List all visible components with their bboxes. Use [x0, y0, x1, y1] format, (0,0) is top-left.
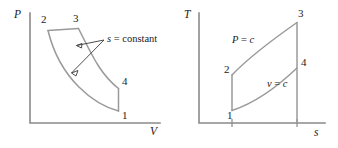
pv-process-2-3 [48, 29, 79, 31]
pv-axes [30, 13, 160, 123]
pv-annotation-arrowhead-lower [72, 71, 79, 77]
ts-axes [199, 13, 325, 123]
ts-process-2-3 [232, 23, 297, 76]
pv-x-axis-label: V [150, 126, 157, 138]
pv-state-label-4: 4 [122, 76, 128, 87]
pv-y-axis-label: P [14, 9, 21, 21]
ts-lower-annotation-value: c [283, 78, 288, 89]
pv-state-label-1: 1 [122, 110, 128, 121]
ts-x-axis-label: s [314, 127, 318, 139]
ts-upper-annotation-equals: = [238, 34, 249, 45]
pv-isentropic-annotation: s = constant [107, 34, 157, 45]
pv-annotation-arrowhead-upper [77, 44, 83, 49]
pv-annotation-equals: = [111, 33, 122, 44]
ts-y-axis-label: T [184, 9, 190, 21]
thermodynamics-figure: P V 2 3 4 1 s = constant T s 2 1 3 4 P =… [0, 0, 338, 148]
ts-state-label-4: 4 [301, 57, 307, 68]
ts-lower-annotation-equals: = [272, 78, 283, 89]
ts-state-label-1: 1 [227, 110, 233, 121]
pv-annotation-value: constant [122, 33, 157, 44]
ts-constant-pressure-annotation: P = c [232, 35, 254, 46]
ts-constant-volume-annotation: v = c [267, 79, 288, 90]
pv-state-label-3: 3 [73, 13, 79, 24]
ts-state-label-2: 2 [224, 64, 230, 75]
pv-state-label-2: 2 [41, 14, 47, 25]
ts-state-label-3: 3 [298, 8, 304, 19]
pv-diagram-canvas [0, 0, 338, 148]
ts-upper-annotation-value: c [250, 34, 255, 45]
